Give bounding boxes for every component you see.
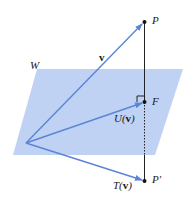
projection-diagram: W v P F U(v) T(v) P′ — [0, 0, 193, 199]
label-f: F — [152, 96, 159, 107]
label-u-close: ) — [131, 112, 135, 124]
point-f — [143, 100, 147, 104]
point-p — [143, 20, 147, 24]
point-p-prime — [143, 179, 147, 183]
label-u-func: U( — [114, 112, 126, 124]
label-t-close: ) — [128, 179, 132, 191]
label-u-of-v: U(v) — [114, 113, 135, 124]
label-t-func: T( — [113, 179, 123, 191]
label-p-prime: P′ — [152, 174, 161, 185]
label-plane-w: W — [30, 60, 39, 71]
plane-w — [13, 69, 183, 155]
label-t-of-v: T(v) — [113, 180, 132, 191]
label-v: v — [99, 52, 105, 63]
diagram-canvas — [0, 0, 193, 199]
label-p: P — [152, 15, 159, 26]
